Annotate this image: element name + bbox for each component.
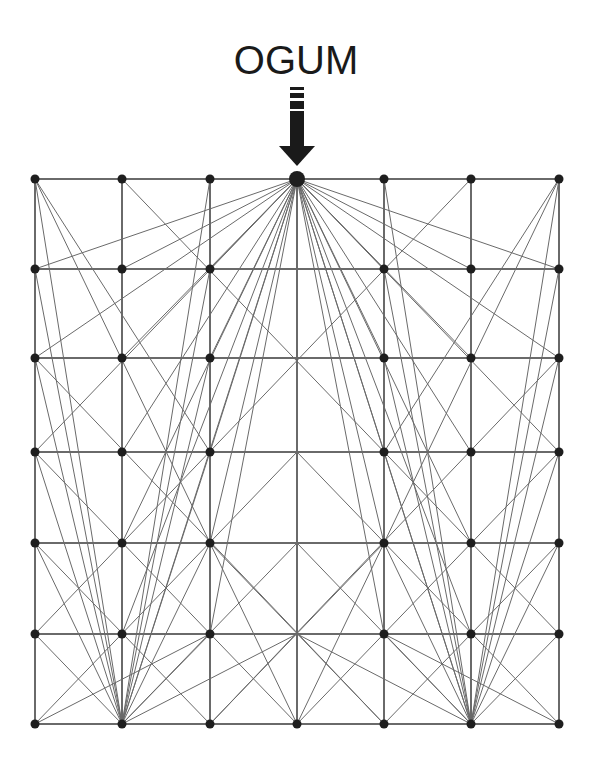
grid-node (31, 354, 40, 363)
bottom-hub-edge (471, 269, 559, 724)
grid-node (555, 354, 564, 363)
hub-edge (35, 179, 297, 269)
grid-node (31, 265, 40, 274)
edges (35, 179, 559, 724)
grid-node (206, 630, 215, 639)
down-arrow-icon (279, 87, 315, 166)
grid-node (555, 175, 564, 184)
grid-node (118, 175, 127, 184)
grid-node (118, 720, 127, 729)
grid-node (555, 265, 564, 274)
grid-node (380, 539, 389, 548)
grid-node (206, 720, 215, 729)
bottom-hub-edge (122, 269, 210, 724)
hub-edge (210, 179, 297, 543)
grid-node (467, 539, 476, 548)
hub-edge (297, 179, 559, 452)
grid-node (467, 630, 476, 639)
grid-node (118, 448, 127, 457)
grid-node (206, 448, 215, 457)
grid-node (380, 448, 389, 457)
grid-node (293, 720, 302, 729)
grid-node (31, 539, 40, 548)
grid-node (467, 720, 476, 729)
grid-node (118, 630, 127, 639)
grid-node (555, 539, 564, 548)
grid-node (555, 630, 564, 639)
bottom-hub-edge (384, 358, 471, 724)
arrow-part (290, 101, 304, 109)
hub-edge (297, 179, 384, 543)
arrow-part (290, 111, 304, 147)
grid-node (467, 354, 476, 363)
bottom-hub-edge (122, 358, 210, 724)
grid-node (118, 354, 127, 363)
grid-node (380, 720, 389, 729)
grid-node (380, 175, 389, 184)
grid-node (467, 265, 476, 274)
ogum-hub-node (289, 171, 305, 187)
grid-node (118, 539, 127, 548)
grid-node (206, 539, 215, 548)
bottom-hub-edge (35, 358, 122, 724)
grid-node (467, 448, 476, 457)
grid-node (31, 720, 40, 729)
grid-node (206, 265, 215, 274)
grid-node (118, 265, 127, 274)
grid-node (380, 630, 389, 639)
grid-node (206, 354, 215, 363)
grid-node (380, 265, 389, 274)
arrow-part (279, 146, 315, 166)
grid-node (467, 175, 476, 184)
arrow-part (290, 87, 304, 90)
grid-node (206, 175, 215, 184)
grid-node (31, 175, 40, 184)
network-diagram (0, 0, 592, 766)
grid-node (31, 630, 40, 639)
grid-node (31, 448, 40, 457)
arrow-part (290, 93, 304, 98)
grid-node (555, 448, 564, 457)
grid-node (380, 354, 389, 363)
hub-edge (35, 179, 297, 452)
grid-node (555, 720, 564, 729)
bottom-hub-edge (471, 358, 559, 724)
